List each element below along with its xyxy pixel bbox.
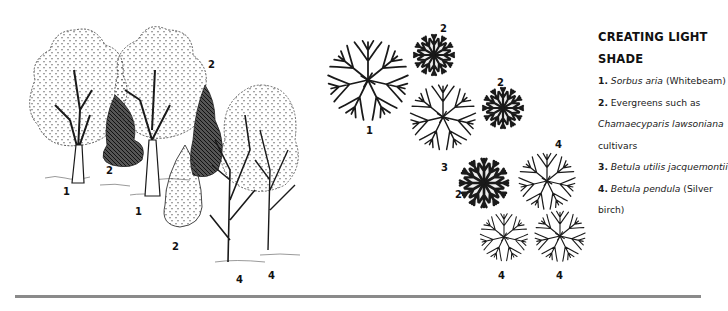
item-number: 1. [598, 75, 608, 86]
label-plan-1: 1 [366, 126, 373, 136]
item-text: Evergreens such as [608, 97, 701, 108]
item-number: 3. [598, 161, 608, 172]
item-latin-name: Betula pendula [611, 183, 681, 194]
label-elev-4: 2 [172, 242, 179, 252]
caption-title-line1: CREATING LIGHT [598, 30, 708, 44]
item-latin-name: Chamaecyparis lawsoniana [598, 118, 724, 129]
caption-item-3: 3. Betula utilis jacquemontii [598, 156, 713, 178]
label-elev-5: 4 [236, 275, 243, 285]
label-elev-2: 1 [135, 207, 142, 217]
item-text: cultivars [598, 140, 637, 151]
birch-trees [210, 85, 298, 262]
horizontal-rule [15, 295, 701, 298]
label-elev-6: 4 [268, 271, 275, 281]
caption-title: CREATING LIGHT SHADE [598, 26, 713, 70]
plan-evergreen-1 [414, 35, 454, 75]
label-plan-5: 4 [555, 140, 562, 150]
caption-item-2: 2. Evergreens such as [598, 92, 713, 114]
caption-title-line2: SHADE [598, 52, 643, 66]
label-plan-4: 2 [455, 190, 462, 200]
item-common-name: (Silver [680, 183, 712, 194]
label-plan-3: 3 [441, 163, 448, 173]
plan-betula-utilis [409, 84, 476, 150]
label-plan-0: 2 [440, 24, 447, 34]
caption-item-2-cont: Chamaecyparis lawsoniana [598, 113, 713, 135]
item-latin-name: Betula utilis jacquemontii [611, 161, 728, 172]
label-elev-3: 2 [208, 60, 215, 70]
plan-betula-pendula-2 [480, 213, 529, 261]
item-common-name: (Whitebeam) [663, 75, 726, 86]
item-number: 4. [598, 183, 608, 194]
item-latin-name: Sorbus aria [611, 75, 663, 86]
caption: CREATING LIGHT SHADE 1. Sorbus aria (Whi… [598, 26, 713, 221]
plan-betula-pendula-3 [534, 211, 586, 262]
caption-item-1: 1. Sorbus aria (Whitebeam) [598, 70, 713, 92]
plan-betula-pendula-1 [518, 153, 576, 210]
item-text: birch) [598, 204, 624, 215]
plan-sorbus [327, 40, 409, 122]
caption-item-4-cont: birch) [598, 199, 713, 221]
elevation-view [30, 27, 300, 262]
plan-evergreen-3 [460, 159, 508, 207]
label-plan-2: 2 [497, 78, 504, 88]
plan-view [327, 35, 586, 262]
plan-evergreen-2 [483, 88, 523, 128]
label-elev-0: 1 [63, 187, 70, 197]
caption-item-4: 4. Betula pendula (Silver [598, 178, 713, 200]
label-plan-6: 4 [498, 271, 505, 281]
label-elev-1: 2 [106, 166, 113, 176]
item-number: 2. [598, 97, 608, 108]
caption-item-2-cont2: cultivars [598, 135, 713, 157]
label-plan-7: 4 [556, 271, 563, 281]
